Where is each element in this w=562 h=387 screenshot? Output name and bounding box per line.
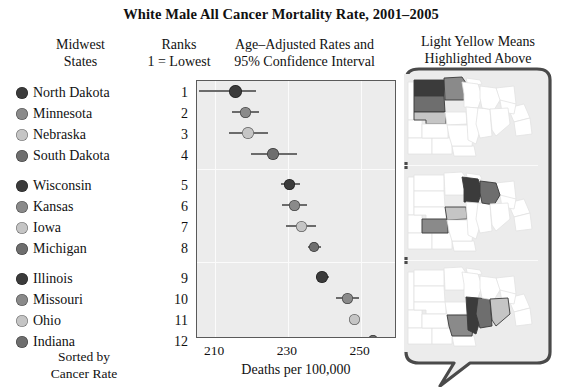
map-state-shape xyxy=(414,80,444,96)
column-header-states: Midwest States xyxy=(18,36,143,70)
map-state-shape xyxy=(414,191,445,207)
state-name-label: Kansas xyxy=(33,200,73,214)
sorted-by-line1: Sorted by xyxy=(14,348,154,365)
map-state-shape xyxy=(445,112,467,125)
map-state-shape xyxy=(445,302,467,315)
map-state-shape xyxy=(422,124,448,138)
map-state-shape xyxy=(414,286,445,302)
state-color-swatch-icon xyxy=(16,201,28,213)
map-callout-wrapper xyxy=(392,66,562,387)
state-list-item[interactable]: Illinois xyxy=(16,268,148,289)
state-list-item[interactable]: Iowa xyxy=(16,217,148,238)
page-title: White Male All Cancer Mortality Rate, 20… xyxy=(0,6,562,23)
rank-value: 7 xyxy=(150,217,188,238)
column-header-rates-line1: Age–Adjusted Rates and xyxy=(212,36,397,53)
state-name-label: South Dakota xyxy=(33,149,110,163)
map-state-shape xyxy=(462,82,482,108)
state-color-swatch-icon xyxy=(16,243,28,255)
midwest-map-icon xyxy=(404,264,538,352)
column-header-states-line1: Midwest xyxy=(18,36,143,53)
rank-value: 10 xyxy=(150,289,188,310)
map-state-shape xyxy=(476,108,492,138)
rank-value: 9 xyxy=(150,268,188,289)
data-point-dot[interactable] xyxy=(349,314,360,325)
map-state-shape xyxy=(476,203,492,233)
rank-value: 6 xyxy=(150,196,188,217)
column-header-rates-line2: 95% Confidence Interval xyxy=(212,53,397,70)
state-list-item[interactable]: Missouri xyxy=(16,289,148,310)
data-point-dot[interactable] xyxy=(284,179,295,190)
group-separator-gridline xyxy=(197,262,395,263)
map-panels xyxy=(396,66,546,356)
state-color-swatch-icon xyxy=(16,87,28,99)
x-axis-tick-label: 250 xyxy=(340,343,380,359)
vertical-gridline xyxy=(215,81,216,337)
state-name-label: North Dakota xyxy=(33,86,110,100)
data-point-dot[interactable] xyxy=(296,221,307,232)
state-name-label: Nebraska xyxy=(33,128,86,142)
map-state-shape xyxy=(445,207,467,220)
state-list-item[interactable]: Nebraska xyxy=(16,124,148,145)
state-color-swatch-icon xyxy=(16,336,28,348)
map-state-shape xyxy=(414,96,445,112)
state-name-label: Wisconsin xyxy=(33,179,92,193)
state-list-item[interactable]: Kansas xyxy=(16,196,148,217)
data-point-dot[interactable] xyxy=(316,271,328,283)
data-point-dot[interactable] xyxy=(242,127,254,139)
data-point-dot[interactable] xyxy=(342,293,353,304)
dot-plot-panel xyxy=(196,80,396,338)
rank-value: 5 xyxy=(150,175,188,196)
x-axis-tick-label: 230 xyxy=(267,343,307,359)
rank-value: 2 xyxy=(150,103,188,124)
state-list-item[interactable]: South Dakota xyxy=(16,145,148,166)
state-color-swatch-icon xyxy=(16,129,28,141)
data-point-dot[interactable] xyxy=(289,200,300,211)
state-list-item[interactable]: Michigan xyxy=(16,238,148,259)
data-point-dot[interactable] xyxy=(267,148,279,160)
map-panel-group-3[interactable] xyxy=(404,264,538,352)
state-color-swatch-icon xyxy=(16,294,28,306)
map-state-shape xyxy=(476,298,492,328)
state-color-swatch-icon xyxy=(16,150,28,162)
data-point-dot[interactable] xyxy=(240,107,251,118)
state-name-label: Indiana xyxy=(33,335,75,349)
map-state-shape xyxy=(422,314,448,328)
data-point-dot[interactable] xyxy=(309,242,319,252)
state-list-item[interactable]: North Dakota xyxy=(16,82,148,103)
group-separator-gridline xyxy=(197,169,395,170)
confidence-interval-bar xyxy=(199,90,256,92)
column-header-maps-line2: Highlighted Above xyxy=(394,50,562,67)
state-name-label: Illinois xyxy=(33,272,73,286)
map-state-shape xyxy=(414,270,444,286)
map-state-shape xyxy=(490,298,510,326)
map-panel-separator xyxy=(404,260,538,261)
map-panel-separator xyxy=(404,165,538,166)
rank-value: 12 xyxy=(150,331,188,352)
data-point-dot[interactable] xyxy=(368,335,378,338)
column-header-maps-line1: Light Yellow Means xyxy=(394,33,562,50)
state-color-swatch-icon xyxy=(16,108,28,120)
map-panel-group-1[interactable] xyxy=(404,74,538,162)
state-color-swatch-icon xyxy=(16,273,28,285)
map-state-shape xyxy=(422,219,448,233)
data-point-dot[interactable] xyxy=(229,85,242,98)
map-state-shape xyxy=(490,203,510,231)
state-color-swatch-icon xyxy=(16,180,28,192)
x-axis-tick-label: 210 xyxy=(194,343,234,359)
state-name-label: Missouri xyxy=(33,293,83,307)
vertical-gridline xyxy=(288,81,289,337)
map-state-shape xyxy=(414,175,444,191)
state-list-item[interactable]: Ohio xyxy=(16,310,148,331)
state-list-item[interactable]: Minnesota xyxy=(16,103,148,124)
vertical-gridline xyxy=(361,81,362,337)
state-list-item[interactable]: Wisconsin xyxy=(16,175,148,196)
midwest-map-icon xyxy=(404,74,538,162)
map-state-shape xyxy=(462,177,482,203)
map-state-shape xyxy=(462,272,482,298)
column-header-maps: Light Yellow Means Highlighted Above xyxy=(394,33,562,67)
map-panel-group-2[interactable] xyxy=(404,169,538,257)
map-state-shape xyxy=(490,108,510,136)
state-color-swatch-icon xyxy=(16,222,28,234)
rank-value: 8 xyxy=(150,238,188,259)
x-axis-label: Deaths per 100,000 xyxy=(196,362,396,378)
